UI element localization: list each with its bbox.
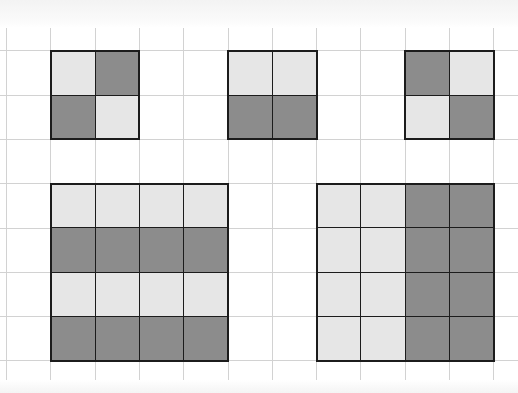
square-4x4-vertical-halves: [316, 183, 493, 360]
dark-cell: [405, 316, 450, 361]
light-cell: [50, 183, 95, 228]
light-cell: [360, 316, 405, 361]
light-cell: [360, 227, 405, 272]
light-cell: [360, 272, 405, 317]
dark-cell: [449, 272, 494, 317]
light-cell: [316, 316, 361, 361]
dark-cell: [405, 50, 450, 95]
square-2x2-bottom-dark: [228, 50, 317, 139]
square-4x4-horizontal-stripes: [50, 183, 227, 360]
top-faded-band: [0, 0, 518, 28]
dark-cell: [449, 316, 494, 361]
bottom-faded-band: [0, 380, 518, 393]
light-cell: [50, 50, 95, 95]
dark-cell: [449, 227, 494, 272]
light-cell: [449, 50, 494, 95]
light-cell: [405, 95, 450, 140]
dark-cell: [95, 50, 140, 95]
dark-cell: [272, 95, 317, 140]
dark-cell: [139, 316, 184, 361]
light-cell: [228, 50, 273, 95]
light-cell: [316, 227, 361, 272]
light-cell: [95, 95, 140, 140]
light-cell: [139, 183, 184, 228]
dark-cell: [449, 183, 494, 228]
square-2x2-diagonal-b: [405, 50, 494, 139]
square-2x2-diagonal-a: [50, 50, 139, 139]
light-cell: [316, 272, 361, 317]
dark-cell: [183, 316, 228, 361]
light-cell: [360, 183, 405, 228]
light-cell: [95, 272, 140, 317]
dark-cell: [139, 227, 184, 272]
dark-cell: [228, 95, 273, 140]
light-cell: [272, 50, 317, 95]
light-cell: [50, 272, 95, 317]
dark-cell: [95, 316, 140, 361]
grid-line-vertical: [6, 28, 7, 385]
dark-cell: [183, 227, 228, 272]
dark-cell: [449, 95, 494, 140]
light-cell: [316, 183, 361, 228]
grid-diagram: [0, 0, 518, 393]
light-cell: [183, 272, 228, 317]
dark-cell: [405, 227, 450, 272]
light-cell: [95, 183, 140, 228]
light-cell: [183, 183, 228, 228]
dark-cell: [405, 183, 450, 228]
dark-cell: [95, 227, 140, 272]
dark-cell: [50, 227, 95, 272]
dark-cell: [50, 316, 95, 361]
light-cell: [139, 272, 184, 317]
dark-cell: [405, 272, 450, 317]
dark-cell: [50, 95, 95, 140]
